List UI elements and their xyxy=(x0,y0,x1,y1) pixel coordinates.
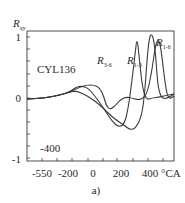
chart: Rxy 1 0 -1 -550 -200 0 200 400 °CA a) CY… xyxy=(0,0,185,203)
annotation-minus400: -400 xyxy=(40,142,61,154)
y-tick-label-1: 1 xyxy=(16,31,22,43)
y-axis-label: Rxy xyxy=(12,17,27,32)
x-tick-label-minus550: -550 xyxy=(32,167,53,179)
series-label-r3-6: R3-6 xyxy=(96,54,112,68)
x-tick-label-0: 0 xyxy=(90,167,96,179)
subfigure-label: a) xyxy=(92,184,101,197)
x-tick-label-400: 400 xyxy=(142,167,159,179)
y-tick-label-0: 0 xyxy=(16,92,22,104)
series-line-r1-3 xyxy=(27,35,174,130)
x-tick-label-minus200: -200 xyxy=(58,167,79,179)
y-tick-label-minus1: -1 xyxy=(12,153,21,165)
x-axis-unit-label: °CA xyxy=(161,167,181,179)
series-label-r1-6: R1-6 xyxy=(155,36,171,50)
engine-label: CYL136 xyxy=(37,63,76,75)
x-tick-label-200: 200 xyxy=(113,167,130,179)
series-lines xyxy=(27,35,174,130)
